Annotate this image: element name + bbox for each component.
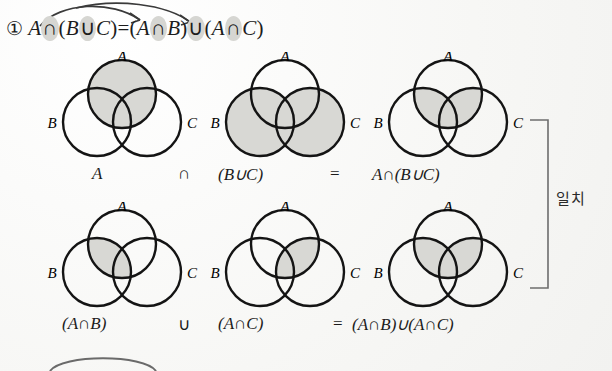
eq-lhs-open-paren: ( — [59, 16, 66, 41]
caption-row1-term3: A∩(B∪C) — [372, 164, 440, 185]
eq-rhs2-a: A — [212, 16, 225, 41]
eq-lhs-a: A — [28, 16, 41, 41]
eq-lhs-b: B — [66, 16, 79, 41]
label-b: B — [373, 115, 382, 131]
eq-rhs2-open-paren: ( — [205, 16, 212, 41]
caption-row1-term2: (B∪C) — [218, 164, 263, 185]
eq-rhs1-b: B — [167, 16, 180, 41]
venn-diagram-a: A B C — [42, 52, 202, 162]
venn-diagram-a-cap-b-union-c: A B C — [368, 52, 528, 162]
venn-diagram-a-cap-b: A B C — [42, 202, 202, 312]
label-b: B — [210, 115, 219, 131]
label-a: A — [442, 202, 453, 214]
match-annotation: 일치 — [556, 187, 585, 208]
header-equation: ① A ∩ ( B ∪ C ) = ( A ∩ B ) ∪ ( A ∩ C ) — [6, 16, 264, 41]
eq-rhs2-close-paren: ) — [256, 16, 263, 41]
label-c: C — [513, 265, 524, 281]
eq-lhs-close-paren: ) — [110, 16, 117, 41]
venn-row-2: A B C A B C — [0, 202, 612, 342]
eq-lhs-c: C — [96, 16, 110, 41]
label-c: C — [350, 265, 361, 281]
eq-rhs-union: ∪ — [187, 16, 204, 41]
label-b: B — [210, 265, 219, 281]
venn-row-1: A B C A B C — [0, 52, 612, 192]
caption-row1-operator-2: = — [330, 164, 340, 184]
label-c: C — [513, 115, 524, 131]
eq-rhs1-intersection: ∩ — [150, 16, 167, 41]
caption-row1-term1: A — [92, 164, 102, 184]
label-b: B — [47, 265, 56, 281]
eq-rhs2-c: C — [242, 16, 256, 41]
label-a: A — [442, 52, 453, 64]
eq-lhs-union: ∪ — [79, 16, 96, 41]
next-diagram-partial-arc — [48, 352, 158, 371]
caption-row2-term2: (A∩C) — [218, 314, 263, 334]
caption-row2-operator-2: = — [333, 314, 343, 334]
label-c: C — [187, 115, 198, 131]
caption-row1-operator-1: ∩ — [178, 164, 190, 184]
grouping-brace-icon — [528, 118, 554, 290]
label-b: B — [47, 115, 56, 131]
venn-diagram-a-cap-b-union-a-cap-c: A B C — [368, 202, 528, 312]
label-a: A — [116, 202, 127, 214]
label-b: B — [373, 265, 382, 281]
caption-row2-term3: (A∩B)∪(A∩C) — [352, 314, 454, 335]
eq-rhs2-intersection: ∩ — [225, 16, 242, 41]
item-number: ① — [6, 17, 23, 40]
venn-diagram-b-union-c: A B C — [205, 52, 365, 162]
worksheet-page: ① A ∩ ( B ∪ C ) = ( A ∩ B ) ∪ ( A ∩ C ) — [0, 0, 612, 371]
label-c: C — [187, 265, 198, 281]
eq-rhs1-close-paren: ) — [180, 16, 187, 41]
venn-diagram-a-cap-c: A B C — [205, 202, 365, 312]
eq-lhs-intersection: ∩ — [41, 16, 58, 41]
label-a: A — [279, 202, 290, 214]
caption-row2-operator-1: ∪ — [178, 314, 190, 335]
label-a: A — [116, 52, 127, 64]
eq-rhs1-open-paren: ( — [130, 16, 137, 41]
eq-rhs1-a: A — [137, 16, 150, 41]
label-c: C — [350, 115, 361, 131]
caption-row2-term1: (A∩B) — [62, 314, 106, 334]
eq-equals: = — [117, 16, 129, 41]
label-a: A — [279, 52, 290, 64]
